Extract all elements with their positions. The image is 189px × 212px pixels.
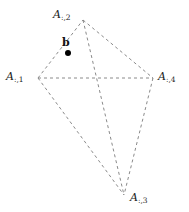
edge-A1-A3 — [38, 78, 124, 195]
vertex-label-base: A — [6, 70, 14, 83]
edge-A4-A3 — [124, 78, 153, 195]
edge-A1-A2 — [38, 20, 83, 78]
diagram-canvas — [0, 0, 189, 212]
edges-group — [38, 20, 153, 195]
vertex-label-subscript: :,2 — [61, 13, 71, 22]
vertex-label-a1: A:,1 — [6, 71, 24, 84]
vertex-label-subscript: :,3 — [138, 196, 148, 205]
vertex-label-base: A — [158, 70, 166, 83]
vertex-label-subscript: :,4 — [166, 75, 176, 84]
vertex-label-base: A — [53, 8, 61, 21]
vertex-label-a3: A:,3 — [130, 192, 148, 205]
edge-A2-A3 — [83, 20, 124, 195]
vertex-label-subscript: :,1 — [14, 75, 24, 84]
edge-A2-A4 — [83, 20, 153, 78]
vertex-label-a2: A:,2 — [53, 9, 71, 22]
vertex-label-a4: A:,4 — [158, 71, 176, 84]
figure-container: A:,1A:,2A:,3A:,4b — [0, 0, 189, 212]
vertex-label-base: A — [130, 191, 138, 204]
point-dot-b — [65, 50, 71, 56]
point-label-b: b — [62, 37, 70, 48]
